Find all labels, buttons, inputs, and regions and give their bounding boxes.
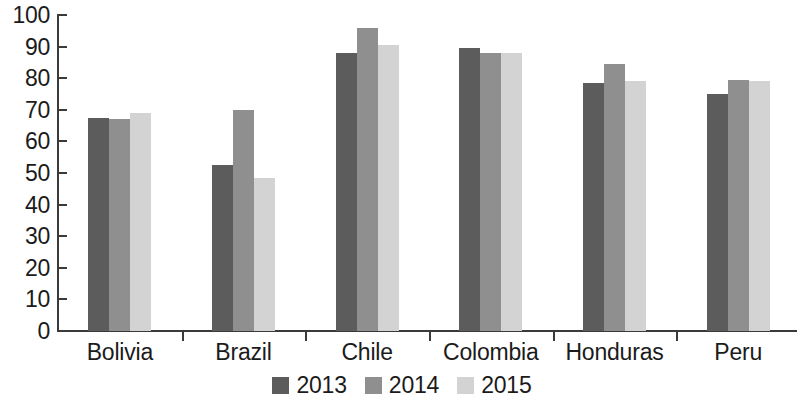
x-axis-tick	[553, 331, 555, 341]
y-axis-tick-label: 60	[6, 130, 58, 153]
legend-label-2014: 2014	[389, 374, 439, 397]
legend-swatch-2015	[457, 377, 474, 394]
x-axis-tick	[305, 331, 307, 341]
bar-chart: 0102030405060708090100 BoliviaBrazilChil…	[0, 0, 804, 402]
y-axis-tick-label: 30	[6, 225, 58, 248]
bar-brazil-2013[interactable]	[212, 165, 233, 331]
bar-group-bolivia	[88, 15, 151, 331]
bar-peru-2014[interactable]	[728, 80, 749, 331]
x-axis-label-colombia: Colombia	[443, 341, 539, 364]
x-axis-label-peru: Peru	[714, 341, 762, 364]
bar-peru-2013[interactable]	[707, 94, 728, 331]
x-axis-label-honduras: Honduras	[565, 341, 663, 364]
bar-group-honduras	[583, 15, 646, 331]
y-axis-tick-label: 50	[6, 162, 58, 185]
legend-label-2013: 2013	[296, 374, 346, 397]
y-axis-tick-label: 10	[6, 288, 58, 311]
bar-bolivia-2013[interactable]	[88, 118, 109, 331]
bar-group-chile	[336, 15, 399, 331]
y-axis-tick-label: 40	[6, 193, 58, 216]
legend-swatch-2013	[272, 377, 289, 394]
x-axis-tick	[676, 331, 678, 341]
bar-chile-2014[interactable]	[357, 28, 378, 331]
x-axis-label-bolivia: Bolivia	[87, 341, 153, 364]
y-axis-tick-label: 70	[6, 98, 58, 121]
bar-honduras-2015[interactable]	[625, 81, 646, 331]
bar-chile-2013[interactable]	[336, 53, 357, 331]
x-axis-tick	[182, 331, 184, 341]
plot-area	[58, 15, 800, 331]
bar-group-brazil	[212, 15, 275, 331]
y-axis-tick-label: 0	[6, 320, 58, 343]
bar-peru-2015[interactable]	[749, 81, 770, 331]
legend-item-2013[interactable]: 2013	[272, 374, 346, 397]
bar-honduras-2014[interactable]	[604, 64, 625, 331]
bar-group-peru	[707, 15, 770, 331]
x-axis-label-brazil: Brazil	[215, 341, 271, 364]
bar-colombia-2015[interactable]	[501, 53, 522, 331]
x-axis-tick	[429, 331, 431, 341]
legend-swatch-2014	[365, 377, 382, 394]
bar-colombia-2014[interactable]	[480, 53, 501, 331]
bar-bolivia-2015[interactable]	[130, 113, 151, 331]
y-axis-tick-label: 20	[6, 256, 58, 279]
chart-legend: 201320142015	[0, 374, 804, 397]
bar-brazil-2014[interactable]	[233, 110, 254, 331]
bar-chile-2015[interactable]	[378, 45, 399, 331]
legend-item-2015[interactable]: 2015	[457, 374, 531, 397]
legend-label-2015: 2015	[481, 374, 531, 397]
y-axis-tick-label: 90	[6, 35, 58, 58]
x-axis-label-chile: Chile	[341, 341, 392, 364]
bar-bolivia-2014[interactable]	[109, 119, 130, 331]
legend-item-2014[interactable]: 2014	[365, 374, 439, 397]
bar-honduras-2013[interactable]	[583, 83, 604, 331]
bar-colombia-2013[interactable]	[459, 48, 480, 331]
bar-brazil-2015[interactable]	[254, 178, 275, 331]
bar-group-colombia	[459, 15, 522, 331]
y-axis-tick-label: 80	[6, 67, 58, 90]
y-axis-tick-label: 100	[6, 4, 58, 27]
